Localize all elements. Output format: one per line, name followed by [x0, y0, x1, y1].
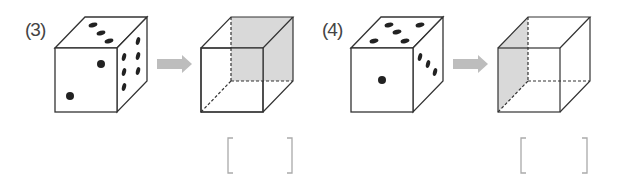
answer-cube-4	[498, 17, 590, 112]
pip	[66, 92, 74, 100]
pip	[97, 60, 105, 68]
answer-cube-3	[201, 17, 293, 112]
answer-bracket-4[interactable]	[521, 138, 587, 173]
arrow-right-icon	[157, 55, 192, 73]
arrow-right-icon	[453, 55, 488, 73]
shaded-left-face	[498, 17, 528, 112]
answer-bracket-3[interactable]	[228, 138, 292, 173]
dice-diagram	[0, 0, 626, 182]
pip	[378, 76, 386, 84]
